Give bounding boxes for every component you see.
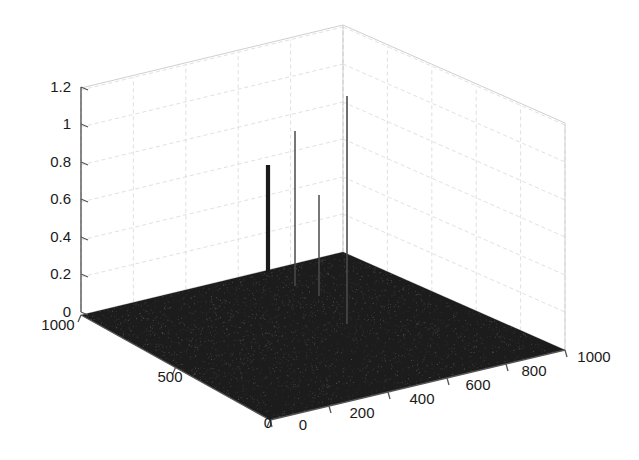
z-tick-label-3: 0.6	[50, 190, 71, 207]
z-tick-label-0: 1.2	[50, 78, 71, 95]
z-tick-label-1: 1	[63, 115, 71, 132]
figure-root: 1.210.80.60.40.20 10005000 0200400600800…	[0, 0, 639, 460]
3d-stem-plot: 1.210.80.60.40.20 10005000 0200400600800…	[0, 0, 639, 460]
x-tick-label-5: 1000	[577, 348, 610, 365]
x-tick-label-2: 400	[409, 390, 434, 407]
x-tick-label-3: 600	[465, 376, 490, 393]
y-tick-label-2: 0	[264, 414, 272, 431]
z-tick-label-5: 0.2	[50, 265, 71, 282]
x-tick-label-4: 800	[521, 362, 546, 379]
y-tick-label-0: 1000	[41, 316, 74, 333]
z-tick-label-4: 0.4	[50, 228, 71, 245]
noise-floor-surface	[81, 252, 565, 420]
x-tick-label-0: 0	[299, 416, 307, 433]
y-tick-label-1: 500	[157, 368, 182, 385]
x-tick-label-1: 200	[349, 404, 374, 421]
z-tick-label-2: 0.8	[50, 153, 71, 170]
z-axis-tick-labels: 1.210.80.60.40.20	[50, 78, 71, 320]
